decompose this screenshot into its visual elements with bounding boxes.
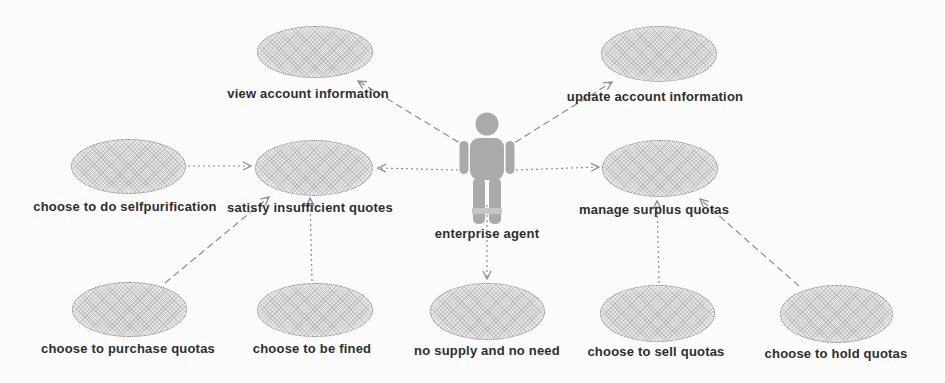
usecase-ellipse-choose-to-be-fined [257,283,373,337]
connector-actor-to-satisfy-insufficient-quotes [378,168,458,170]
usecase-label-choose-to-sell-quotas: choose to sell quotas [587,344,724,359]
usecase-ellipse-choose-to-purchase-quotas [72,282,187,337]
usecase-label-satisfy-insufficient-quotes: satisfy insufficient quotes [227,200,393,215]
usecase-ellipse-no-supply-and-no-need [430,283,545,340]
usecase-label-choose-to-be-fined: choose to be fined [253,341,371,356]
usecase-label-choose-to-do-selfpurification: choose to do selfpurification [33,199,216,214]
use-case-diagram: view account information update account … [0,0,945,383]
usecase-ellipse-update-account-information [601,26,717,82]
usecase-ellipse-choose-to-do-selfpurification [71,139,186,194]
connector-actor-to-manage-surplus-quotas [516,167,599,170]
usecase-ellipse-satisfy-insufficient-quotes [255,140,373,196]
usecase-ellipse-choose-to-hold-quotas [780,285,893,343]
usecase-ellipse-view-account-information [257,26,373,78]
usecase-label-update-account-information: update account information [567,89,743,104]
usecase-ellipse-manage-surplus-quotas [602,140,718,197]
usecase-label-choose-to-hold-quotas: choose to hold quotas [765,346,908,361]
usecase-label-choose-to-purchase-quotas: choose to purchase quotas [41,341,215,356]
actor-enterprise-agent [458,112,516,230]
usecase-label-no-supply-and-no-need: no supply and no need [414,343,560,358]
actor-person-icon [458,112,516,230]
usecase-ellipse-choose-to-sell-quotas [600,285,715,342]
usecase-label-manage-surplus-quotas: manage surplus quotas [579,202,729,217]
actor-label: enterprise agent [435,226,539,241]
usecase-label-view-account-information: view account information [227,86,389,101]
